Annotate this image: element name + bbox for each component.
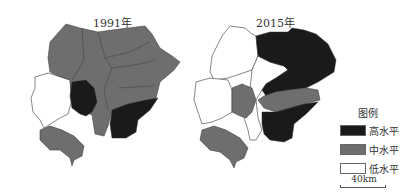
region-2015-northeast-high [256, 28, 336, 96]
legend-swatch-low [340, 163, 366, 174]
region-2015-southeast-high [262, 102, 318, 142]
legend-item-high: 高水平 [340, 123, 414, 138]
legend-label-high: 高水平 [369, 123, 399, 138]
scale-bar [340, 185, 386, 188]
region-2015-southwest-mid [200, 126, 248, 168]
region-2015-center-east-mid [258, 88, 320, 112]
legend-title: 图例 [322, 105, 414, 120]
map-2015-title: 2015年 [256, 14, 295, 30]
region-1991-southwest-mid [40, 126, 84, 166]
map-1991 [0, 0, 200, 192]
region-2015-centergap-low [244, 56, 288, 140]
legend-swatch-mid [340, 144, 366, 155]
legend-swatch-high [340, 125, 366, 136]
legend-item-mid: 中水平 [340, 142, 414, 157]
region-2015-centerwest-mid [232, 84, 256, 118]
region-2015-northwest-low [210, 26, 258, 80]
legend-label-mid: 中水平 [369, 142, 399, 157]
region-1991-west-low [31, 73, 72, 128]
scale-label: 40km [344, 174, 384, 184]
legend: 图例 高水平 中水平 低水平 [340, 105, 414, 180]
